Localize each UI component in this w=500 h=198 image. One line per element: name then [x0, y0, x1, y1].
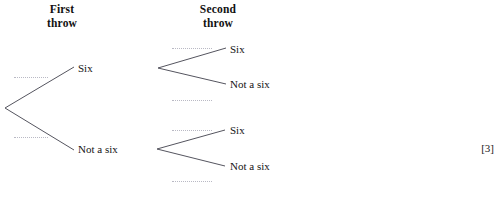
branch-s1-six [158, 48, 226, 68]
probability-blank-second-six-lower[interactable] [172, 129, 212, 131]
outcome-label-second-not-a-six-upper: Not a six [230, 78, 270, 91]
probability-blank-first-six[interactable] [14, 76, 48, 78]
probability-blank-first-not-a-six[interactable] [14, 136, 48, 138]
worksheet-page: First throw Second throw Six Not a six S… [0, 0, 500, 198]
branch-first-six [5, 67, 74, 108]
branch-s2-notsix [157, 149, 225, 166]
probability-blank-second-six-upper[interactable] [172, 47, 212, 49]
probability-blank-second-not-a-six-upper[interactable] [172, 99, 212, 101]
outcome-label-first-six: Six [78, 62, 93, 75]
outcome-label-first-not-a-six: Not a six [78, 143, 118, 156]
outcome-label-second-six-upper: Six [230, 43, 245, 56]
branch-s1-notsix [158, 68, 226, 84]
outcome-label-second-six-lower: Six [230, 124, 245, 137]
outcome-label-second-not-a-six-lower: Not a six [230, 160, 270, 173]
branch-s2-six [157, 130, 225, 149]
probability-blank-second-not-a-six-lower[interactable] [172, 180, 212, 182]
marks-allocation: [3] [481, 142, 494, 154]
branch-first-notsix [5, 108, 74, 150]
